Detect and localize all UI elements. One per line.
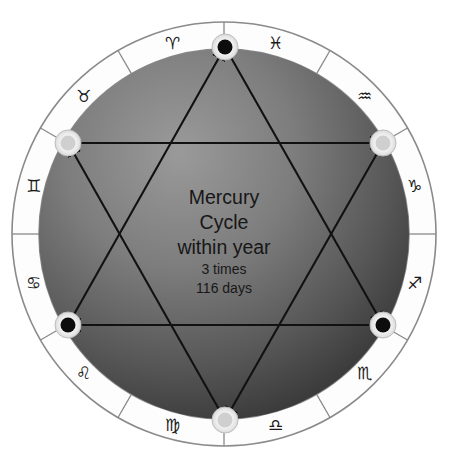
zodiac-glyph-gemini: ♊	[26, 176, 41, 196]
zodiac-glyph-libra: ♎	[268, 415, 283, 435]
zodiac-glyph-aquarius: ♒	[357, 86, 372, 106]
zodiac-glyph-virgo: ♍	[165, 415, 180, 435]
zodiac-glyph-pisces: ♓	[268, 33, 283, 53]
zodiac-glyph-taurus: ♉	[76, 86, 91, 106]
node-lower-left	[55, 312, 81, 338]
node-bottom	[212, 407, 238, 433]
node-upper-left	[55, 130, 81, 156]
zodiac-wheel: ♈ ♉ ♊ ♋ ♌ ♍ ♎ ♏ ♐ ♑ ♒ ♓	[0, 0, 449, 467]
center-detail-days: 116 days	[196, 280, 252, 296]
center-detail-times: 3 times	[201, 261, 246, 277]
node-top	[212, 34, 238, 60]
center-title-line-1: Mercury	[189, 186, 260, 208]
zodiac-glyph-scorpio: ♏	[357, 363, 372, 383]
zodiac-glyph-capricorn: ♑	[407, 176, 422, 196]
zodiac-glyph-sagittarius: ♐	[407, 273, 422, 293]
node-lower-right	[370, 312, 396, 338]
node-upper-right	[370, 130, 396, 156]
center-title-line-2: Cycle	[200, 211, 249, 233]
zodiac-glyph-leo: ♌	[76, 363, 91, 383]
center-title-line-3: within year	[176, 236, 271, 258]
zodiac-glyph-aries: ♈	[165, 33, 180, 53]
mercury-cycle-diagram: ♈ ♉ ♊ ♋ ♌ ♍ ♎ ♏ ♐ ♑ ♒ ♓	[0, 0, 449, 467]
inner-disc	[39, 49, 409, 419]
zodiac-glyph-cancer: ♋	[26, 273, 41, 293]
